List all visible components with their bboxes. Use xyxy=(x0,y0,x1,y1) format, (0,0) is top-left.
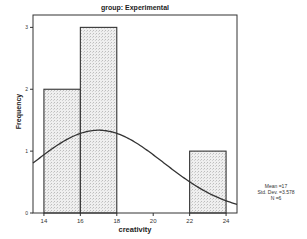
stats-box: Mean =17 Std. Dev. =3.578 N =6 xyxy=(248,183,304,201)
y-tick-label: 1 xyxy=(25,148,28,154)
x-tick-label: 16 xyxy=(77,218,84,224)
x-tick-label: 18 xyxy=(113,218,120,224)
histogram-bar xyxy=(190,151,226,213)
histogram-bar xyxy=(80,27,116,213)
x-tick-label: 24 xyxy=(223,218,230,224)
x-tick-label: 20 xyxy=(150,218,157,224)
y-tick-label: 0 xyxy=(25,210,28,216)
x-tick-label: 14 xyxy=(41,218,48,224)
histogram-plot: 141618202224 0123 xyxy=(0,0,307,239)
y-axis-ticks: 0123 xyxy=(25,24,33,216)
y-tick-label: 2 xyxy=(25,86,28,92)
x-tick-label: 22 xyxy=(186,218,193,224)
x-axis-ticks: 141618202224 xyxy=(41,213,230,224)
y-tick-label: 3 xyxy=(25,24,28,30)
histogram-bars xyxy=(44,27,226,213)
stats-n: N =6 xyxy=(248,195,304,201)
